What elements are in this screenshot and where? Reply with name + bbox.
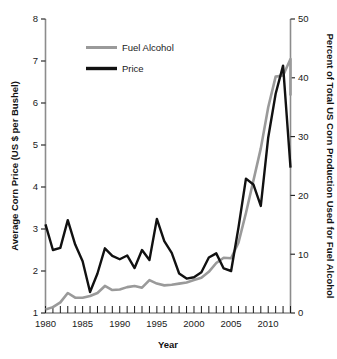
x-tick-label-1995: 1995 — [146, 318, 167, 329]
chart-container: 8 7 6 5 4 3 2 1 50 40 30 20 — [0, 0, 337, 359]
corn-price-fuel-alcohol-chart: 8 7 6 5 4 3 2 1 50 40 30 20 — [0, 0, 337, 359]
y2-tick-label-40: 40 — [298, 72, 309, 83]
y-axis-title: Average Corn Price (US $ per Bushel) — [9, 81, 20, 251]
legend-label-price: Price — [122, 63, 144, 74]
x-tick-label-2000: 2000 — [183, 318, 204, 329]
y2-tick-label-20: 20 — [298, 190, 309, 201]
y-tick-label-8: 8 — [33, 13, 38, 24]
y2-tick-label-50: 50 — [298, 13, 309, 24]
y-tick-label-2: 2 — [33, 265, 38, 276]
y2-tick-label-30: 30 — [298, 131, 309, 142]
y2-axis-title: Percent of Total US Corn Production Used… — [325, 34, 336, 299]
y-tick-label-1: 1 — [33, 307, 38, 318]
x-tick-label-1985: 1985 — [72, 318, 93, 329]
x-axis-title: Year — [158, 339, 178, 350]
y-tick-label-6: 6 — [33, 97, 38, 108]
y-tick-label-3: 3 — [33, 223, 38, 234]
x-tick-label-2010: 2010 — [258, 318, 279, 329]
y-tick-label-5: 5 — [33, 139, 38, 150]
chart-background — [0, 0, 337, 359]
y2-tick-label-0: 0 — [298, 307, 303, 318]
x-tick-label-1990: 1990 — [109, 318, 130, 329]
x-tick-label-1980: 1980 — [35, 318, 56, 329]
y2-tick-label-10: 10 — [298, 249, 309, 260]
x-tick-label-2005: 2005 — [220, 318, 241, 329]
legend-label-fuel-alcohol: Fuel Alcohol — [122, 42, 174, 53]
y-tick-label-4: 4 — [33, 181, 38, 192]
y-tick-label-7: 7 — [33, 55, 38, 66]
